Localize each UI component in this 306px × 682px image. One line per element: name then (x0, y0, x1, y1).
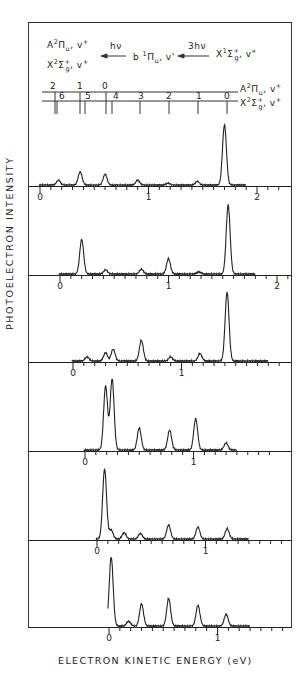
x-tick-label: 1 (203, 546, 209, 556)
x-tick-label: 1 (215, 633, 221, 643)
ladder-X-state-label: X2Σ+g, v+ (240, 96, 282, 111)
final-state-X-label: X2Σ+g, v+ (47, 58, 89, 73)
x-tick-label: 0 (94, 546, 100, 556)
figure-frame (29, 23, 292, 628)
x-tick-label: 0 (106, 633, 112, 643)
panel-1-spectrum (39, 125, 246, 186)
x-tick-label: 0 (82, 457, 88, 467)
initial-state-label: X1Σ+g, v" (216, 47, 256, 62)
x-tick-label: 0 (37, 192, 43, 202)
panel-4-spectrum (84, 379, 237, 451)
x-tick-label: 1 (146, 192, 152, 202)
x-tick-label: 1 (179, 368, 185, 378)
x-tick-label: 1 (166, 281, 172, 291)
y-axis-label: PHOTOELECTRON INTENSITY (4, 156, 15, 330)
panel-2-spectrum (59, 204, 255, 274)
x-tick-label: 0 (70, 368, 76, 378)
ladder-A-state-label: A2Πu, v+ (240, 82, 282, 97)
x-tick-label: 2 (274, 281, 280, 291)
final-state-A-label: A2Πu, v+ (47, 38, 89, 53)
x-axis-label: ELECTRON KINETIC ENERGY (eV) (58, 655, 253, 666)
intermediate-state-label: b 1Πu, v' (133, 50, 175, 65)
panel-5-spectrum (96, 469, 249, 540)
x-tick-label: 1 (191, 457, 197, 467)
photon-arrow-label-1: hν (110, 41, 122, 51)
x-tick-label: 0 (57, 281, 63, 291)
x-tick-label: 2 (254, 192, 260, 202)
panel-6-spectrum (108, 558, 250, 627)
photon-arrow-label-2: 3hν (188, 41, 206, 51)
panel-3-spectrum (72, 293, 268, 362)
